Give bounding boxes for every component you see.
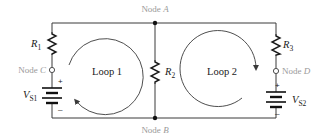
resistor-r3: R3 [272, 34, 293, 56]
r1-label: R1 [30, 38, 41, 52]
node-a-label: Node A [141, 4, 169, 14]
voltage-source-vs2: + – VS2 [266, 81, 307, 118]
node-a: Node A [141, 4, 169, 25]
r3-label: R3 [282, 39, 293, 53]
loop-2: Loop 2 [180, 31, 256, 107]
vs2-plus-sign: + [275, 81, 280, 90]
node-b-dot [153, 116, 157, 120]
vs2-minus-sign: – [275, 109, 280, 118]
resistor-zigzag-icon [151, 60, 159, 84]
resistor-r2: R2 [151, 60, 175, 84]
node-d-label: Node D [282, 66, 311, 76]
vs1-minus-sign: – [58, 105, 63, 114]
node-a-dot [153, 21, 157, 25]
r2-label: R2 [164, 66, 175, 80]
loop-1-label: Loop 1 [92, 66, 122, 77]
node-d-terminal [273, 68, 278, 73]
voltage-source-vs1: + – VS1 [23, 77, 63, 114]
node-c: Node C [18, 65, 54, 75]
circuit-diagram: Node A Node B R1 Node C + – VS1 R2 R3 No… [0, 0, 318, 140]
resistor-zigzag-icon [272, 34, 280, 56]
vs1-plus-sign: + [58, 77, 63, 86]
resistor-r1: R1 [30, 32, 56, 55]
node-c-label: Node C [18, 65, 47, 75]
wires [52, 23, 276, 118]
node-b: Node B [141, 116, 169, 135]
vs2-label: VS2 [292, 94, 307, 108]
node-c-terminal [49, 67, 54, 72]
resistor-zigzag-icon [48, 32, 56, 55]
loop-1: Loop 1 [69, 39, 143, 115]
node-d: Node D [273, 66, 310, 76]
loop-2-label: Loop 2 [207, 66, 237, 77]
vs1-label: VS1 [23, 89, 38, 103]
node-b-label: Node B [141, 125, 169, 135]
